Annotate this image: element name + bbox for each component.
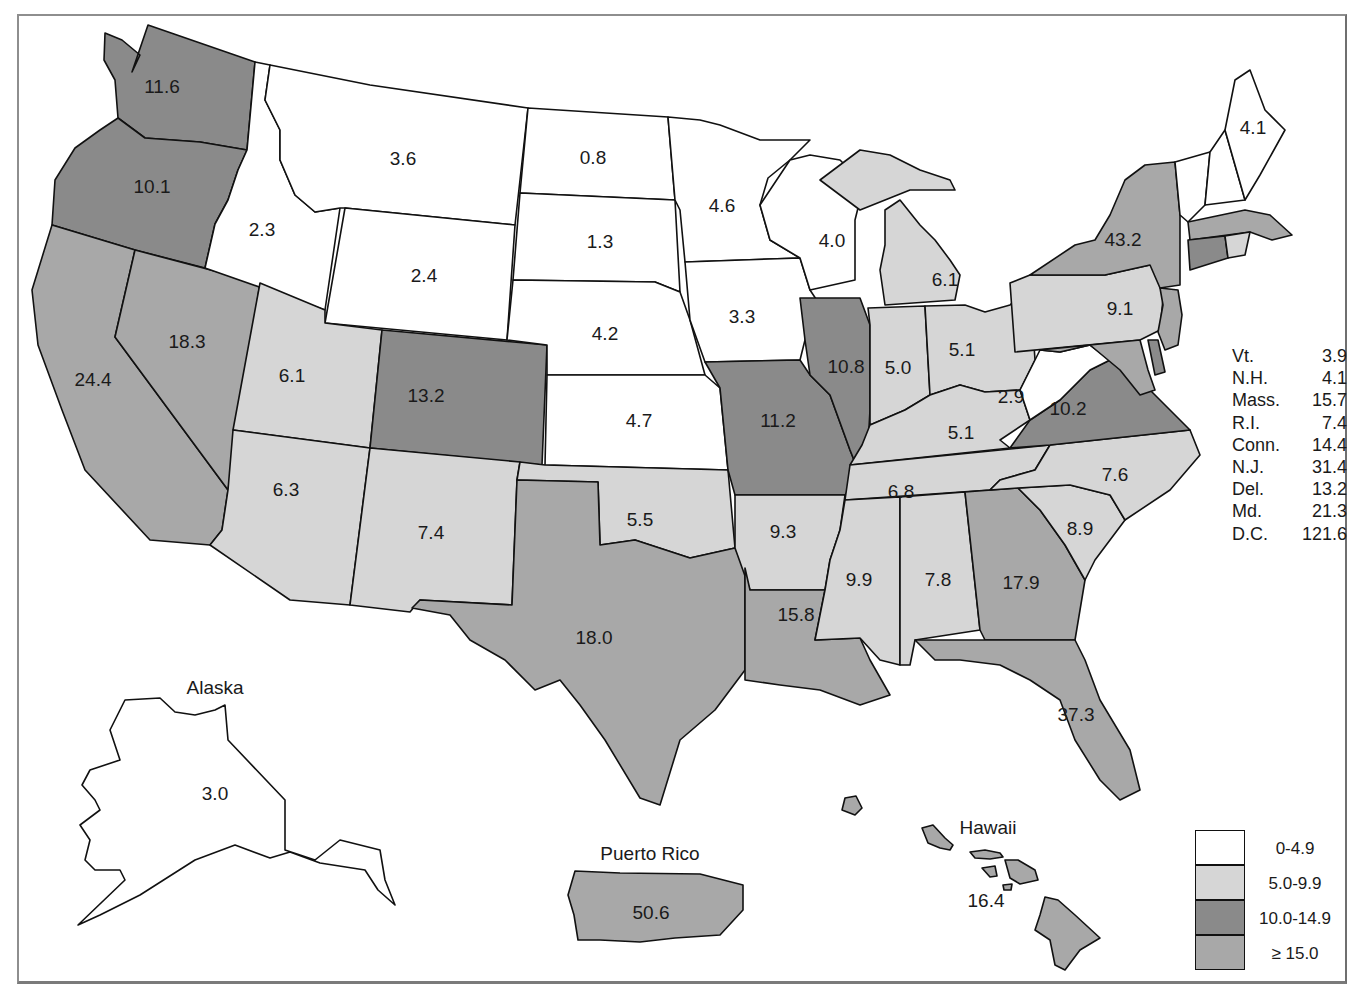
state-florida	[915, 640, 1140, 800]
label-or: 10.1	[134, 176, 171, 197]
small-state-row: N.J.31.4	[1232, 456, 1347, 478]
label-me: 4.1	[1240, 117, 1266, 138]
label-oh: 5.1	[949, 339, 975, 360]
label-ga: 17.9	[1003, 572, 1040, 593]
label-tx: 18.0	[576, 627, 613, 648]
label-ia: 3.3	[729, 306, 755, 327]
label-nm: 7.4	[418, 522, 445, 543]
small-state-row: Conn.14.4	[1232, 434, 1347, 456]
label-mo: 11.2	[760, 410, 796, 431]
label-pa: 9.1	[1107, 298, 1133, 319]
legend-swatch	[1195, 830, 1245, 865]
inset-hawaii-oahu	[970, 850, 1003, 859]
label-ky: 5.1	[948, 422, 974, 443]
label-mi: 6.1	[932, 269, 958, 290]
state-montana	[265, 65, 528, 225]
label-wv: 2.9	[998, 386, 1024, 407]
label-ca: 24.4	[75, 369, 112, 390]
us-choropleth-map: 11.6 10.1 24.4 18.3 2.3 3.6 2.4 6.1 6.3 …	[0, 0, 1359, 998]
label-in: 5.0	[885, 357, 911, 378]
label-ok: 5.5	[627, 509, 653, 530]
label-ny: 43.2	[1105, 229, 1142, 250]
label-al: 7.8	[925, 569, 951, 590]
label-va: 10.2	[1050, 398, 1087, 419]
label-wi: 4.0	[819, 230, 845, 251]
state-connecticut	[1188, 236, 1228, 270]
label-la: 15.8	[778, 604, 815, 625]
small-states-table: Vt.3.9 N.H.4.1 Mass.15.7 R.I.7.4 Conn.14…	[1232, 345, 1347, 545]
inset-florida-island	[842, 796, 862, 815]
state-vermont	[1175, 152, 1210, 222]
inset-hawaii-molokai	[982, 866, 997, 877]
label-nc: 7.6	[1102, 464, 1128, 485]
legend-item: 10.0-14.9	[1195, 901, 1345, 936]
state-new-jersey	[1158, 288, 1182, 350]
small-state-row: Mass.15.7	[1232, 389, 1347, 411]
label-wy: 2.4	[411, 265, 438, 286]
label-ms: 9.9	[846, 569, 872, 590]
alaska-value: 3.0	[202, 783, 228, 804]
legend-item: 5.0-9.9	[1195, 866, 1345, 901]
small-state-row: Vt.3.9	[1232, 345, 1347, 367]
state-pennsylvania	[1010, 265, 1165, 352]
inset-alaska	[78, 698, 395, 925]
hawaii-title: Hawaii	[959, 817, 1016, 838]
small-state-row: Del.13.2	[1232, 478, 1347, 500]
legend-item: ≥ 15.0	[1195, 936, 1345, 971]
state-rhode-island	[1225, 232, 1250, 258]
legend-swatch	[1195, 935, 1245, 970]
label-tn: 6.8	[888, 481, 914, 502]
legend-swatch	[1195, 865, 1245, 900]
label-sd: 1.3	[587, 231, 613, 252]
label-co: 13.2	[408, 385, 445, 406]
label-wa: 11.6	[144, 76, 180, 97]
small-state-row: D.C.121.6	[1232, 523, 1347, 545]
puerto-rico-title: Puerto Rico	[600, 843, 699, 864]
puerto-rico-value: 50.6	[633, 902, 670, 923]
label-id: 2.3	[249, 219, 275, 240]
label-ks: 4.7	[626, 410, 652, 431]
inset-hawaii-maui	[1005, 860, 1038, 884]
label-fl: 37.3	[1058, 704, 1095, 725]
label-sc: 8.9	[1067, 518, 1093, 539]
hawaii-value: 16.4	[968, 890, 1005, 911]
label-ar: 9.3	[770, 521, 796, 542]
small-state-row: Md.21.3	[1232, 500, 1347, 522]
state-colorado	[370, 330, 547, 465]
small-state-row: R.I.7.4	[1232, 412, 1347, 434]
legend: 0-4.9 5.0-9.9 10.0-14.9 ≥ 15.0	[1195, 831, 1345, 971]
label-ut: 6.1	[279, 365, 305, 386]
label-mt: 3.6	[390, 148, 416, 169]
small-state-row: N.H.4.1	[1232, 367, 1347, 389]
label-nv: 18.3	[169, 331, 206, 352]
label-nd: 0.8	[580, 147, 606, 168]
inset-hawaii-big-island	[1035, 897, 1100, 970]
label-az: 6.3	[273, 479, 299, 500]
alaska-title: Alaska	[186, 677, 243, 698]
state-arizona	[210, 430, 370, 605]
label-mn: 4.6	[709, 195, 735, 216]
inset-hawaii-kauai	[922, 825, 953, 850]
state-new-york	[1030, 162, 1180, 288]
legend-swatch	[1195, 900, 1245, 935]
label-ne: 4.2	[592, 323, 618, 344]
legend-item: 0-4.9	[1195, 831, 1345, 866]
label-il: 10.8	[828, 356, 865, 377]
